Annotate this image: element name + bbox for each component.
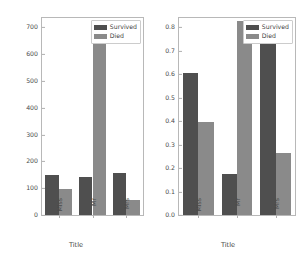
y-tick-label: 100 xyxy=(26,185,42,191)
y-tick-label: 0 xyxy=(34,212,42,218)
legend-entry-survived: Survived xyxy=(94,23,137,32)
x-tick-label: Mr xyxy=(234,198,241,220)
x-tick-label: Miss xyxy=(195,198,202,220)
x-tick-label: Mr xyxy=(90,198,97,220)
x-tick-label: Mrs xyxy=(273,198,280,220)
x-tick-label: Mrs xyxy=(123,198,130,220)
bar-mr-died xyxy=(93,35,106,215)
legend-counts: Survived Died xyxy=(91,20,141,44)
y-tick-label: 200 xyxy=(26,158,42,164)
y-tick-label: 500 xyxy=(26,78,42,84)
bar-mrs-survived xyxy=(260,42,275,215)
x-axis-title-proportions: Title xyxy=(152,241,304,249)
y-tick-label: 0.3 xyxy=(165,142,179,148)
legend-label-survived: Survived xyxy=(262,23,289,32)
x-tick-label: Miss xyxy=(56,198,63,220)
y-tick-label: 0.4 xyxy=(165,118,179,124)
axes-counts: 0100200300400500600700 MissMrMrs Survive… xyxy=(41,17,144,216)
plot-area-counts xyxy=(42,18,143,215)
y-tick-label: 0.7 xyxy=(165,48,179,54)
y-tick-label: 0.5 xyxy=(165,95,179,101)
legend-label-survived: Survived xyxy=(110,23,137,32)
plot-area-proportions xyxy=(179,18,295,215)
legend-swatch-survived-icon xyxy=(246,25,259,30)
x-axis-title-counts: Title xyxy=(0,241,152,249)
chart-panel-counts: 0100200300400500600700 MissMrMrs Survive… xyxy=(0,0,152,262)
y-tick-label: 0.6 xyxy=(165,71,179,77)
legend-swatch-died-icon xyxy=(246,34,259,39)
legend-swatch-died-icon xyxy=(94,34,107,39)
legend-entry-died: Died xyxy=(246,32,289,41)
y-tick-label: 0.0 xyxy=(165,212,179,218)
legend-label-died: Died xyxy=(262,32,276,41)
y-tick-label: 700 xyxy=(26,24,42,30)
legend-swatch-survived-icon xyxy=(94,25,107,30)
chart-panel-proportions: 0.00.10.20.30.40.50.60.70.8 MissMrMrs Su… xyxy=(152,0,304,262)
y-tick-label: 300 xyxy=(26,131,42,137)
bar-mr-died xyxy=(237,21,252,215)
y-tick-label: 400 xyxy=(26,105,42,111)
y-tick-label: 0.8 xyxy=(165,24,179,30)
matplotlib-figure: 0100200300400500600700 MissMrMrs Survive… xyxy=(0,0,304,262)
bar-miss-survived xyxy=(183,73,198,215)
legend-entry-survived: Survived xyxy=(246,23,289,32)
y-tick-label: 0.1 xyxy=(165,188,179,194)
legend-label-died: Died xyxy=(110,32,124,41)
legend-proportions: Survived Died xyxy=(243,20,293,44)
legend-entry-died: Died xyxy=(94,32,137,41)
axes-proportions: 0.00.10.20.30.40.50.60.70.8 MissMrMrs Su… xyxy=(178,17,296,216)
y-tick-label: 0.2 xyxy=(165,165,179,171)
y-tick-label: 600 xyxy=(26,51,42,57)
